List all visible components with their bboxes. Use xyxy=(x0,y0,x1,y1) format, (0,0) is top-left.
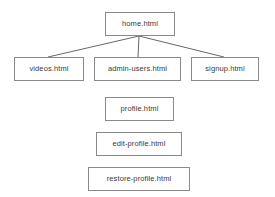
node-videos[interactable]: videos.html xyxy=(14,57,84,81)
node-admin-users[interactable]: admin-users.html xyxy=(94,57,181,81)
node-admin-users-label: admin-users.html xyxy=(108,65,167,73)
edge-home-to-signup xyxy=(139,36,224,57)
node-profile[interactable]: profile.html xyxy=(105,97,174,121)
node-videos-label: videos.html xyxy=(29,65,68,73)
node-restore-profile-label: restore-profile.html xyxy=(107,175,172,183)
node-edit-profile-label: edit-profile.html xyxy=(113,140,166,148)
sitemap-diagram: home.html videos.html admin-users.html s… xyxy=(0,0,275,197)
node-home[interactable]: home.html xyxy=(105,12,175,36)
node-profile-label: profile.html xyxy=(121,105,159,113)
node-restore-profile[interactable]: restore-profile.html xyxy=(88,167,190,191)
edge-home-to-videos xyxy=(48,36,139,57)
node-edit-profile[interactable]: edit-profile.html xyxy=(96,132,182,156)
edge-home-to-admin-users xyxy=(138,36,139,57)
node-home-label: home.html xyxy=(122,20,158,28)
node-signup[interactable]: signup.html xyxy=(191,57,259,81)
node-signup-label: signup.html xyxy=(205,65,244,73)
